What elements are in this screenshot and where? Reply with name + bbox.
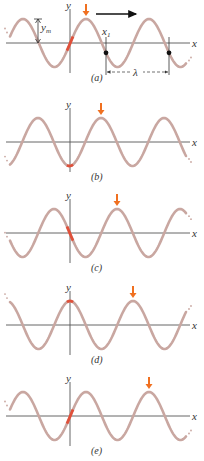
- traveling-wave-diagram: yx(a)ymx1λyx(b)yx(c)yx(d)yx(e): [0, 0, 204, 461]
- continuation-dot: [190, 218, 192, 220]
- x-axis-label: x: [191, 227, 197, 239]
- wavelength-label: λ: [132, 66, 138, 78]
- continuation-dot: [190, 161, 192, 163]
- panel-caption: (e): [91, 445, 103, 457]
- continuation-dot: [188, 433, 190, 435]
- panel-e: yx(e): [4, 372, 197, 457]
- continuation-dot: [6, 405, 8, 407]
- continuation-dot: [190, 57, 192, 59]
- continuation-dot: [4, 401, 6, 403]
- continuation-dot: [188, 308, 190, 310]
- panel-caption: (b): [91, 171, 103, 183]
- y-axis-label: y: [65, 189, 71, 201]
- panel-d: yx(d): [4, 281, 197, 366]
- continuation-dot: [190, 430, 192, 432]
- y-axis-label: y: [65, 372, 71, 384]
- continuation-dot: [188, 215, 190, 217]
- continuation-dot: [4, 156, 6, 158]
- continuation-dot: [190, 305, 192, 307]
- amplitude-label: ym: [40, 21, 51, 35]
- y-axis-label: y: [65, 0, 71, 11]
- panel-caption: (a): [91, 72, 103, 84]
- continuation-dot: [6, 160, 8, 162]
- x-axis-label: x: [191, 410, 197, 422]
- continuation-dot: [6, 32, 8, 34]
- y-axis-label: y: [65, 98, 71, 110]
- panel-c: yx(c): [4, 189, 197, 274]
- panel-a: yx(a)ymx1λ: [4, 0, 197, 84]
- continuation-dot: [6, 236, 8, 238]
- x-axis-label: x: [191, 319, 197, 331]
- x1-label: x1: [101, 25, 110, 39]
- panel-caption: (d): [91, 354, 103, 366]
- x-axis-label: x: [191, 37, 197, 49]
- continuation-dot: [188, 60, 190, 62]
- wavelength-point-marker: [167, 50, 172, 55]
- continuation-dot: [4, 232, 6, 234]
- x1-point-marker: [104, 50, 109, 55]
- origin-element-highlight: [67, 301, 73, 302]
- y-axis-label: y: [65, 281, 71, 293]
- continuation-dot: [188, 158, 190, 160]
- origin-element-highlight: [67, 165, 73, 166]
- x-axis-label: x: [191, 136, 197, 148]
- panel-caption: (c): [91, 262, 103, 274]
- continuation-dot: [4, 293, 6, 295]
- panel-b: yx(b): [4, 98, 197, 183]
- continuation-dot: [6, 297, 8, 299]
- continuation-dot: [4, 28, 6, 30]
